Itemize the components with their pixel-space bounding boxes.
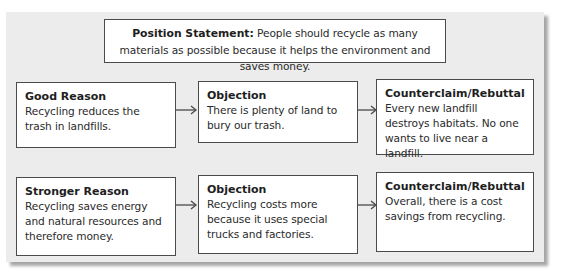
good-reason-box: Good Reason Recycling reduces the trash … (16, 82, 176, 148)
position-statement-box: Position Statement: People should recycl… (104, 19, 446, 63)
position-statement-label: Position Statement: (132, 27, 254, 40)
arrow-right-icon (176, 200, 198, 210)
rebuttal-title-1: Counterclaim/Rebuttal (385, 86, 525, 101)
arrow-right-icon (358, 105, 378, 115)
objection-text-2: Recycling costs more because it uses spe… (207, 197, 349, 242)
objection-text-1: There is plenty of land to bury our tras… (207, 103, 349, 133)
stronger-reason-text: Recycling saves energy and natural resou… (25, 199, 167, 244)
good-reason-title: Good Reason (25, 89, 167, 104)
rebuttal-text-1: Every new landfill destroys habitats. No… (385, 101, 525, 161)
rebuttal-box-1: Counterclaim/Rebuttal Every new landfill… (376, 79, 534, 155)
objection-title-1: Objection (207, 88, 349, 103)
stronger-reason-box: Stronger Reason Recycling saves energy a… (16, 177, 176, 256)
arrow-right-icon (358, 200, 378, 210)
rebuttal-box-2: Counterclaim/Rebuttal Overall, there is … (376, 172, 534, 252)
objection-box-1: Objection There is plenty of land to bur… (198, 81, 358, 143)
rebuttal-text-2: Overall, there is a cost savings from re… (385, 194, 525, 224)
objection-box-2: Objection Recycling costs more because i… (198, 175, 358, 254)
good-reason-text: Recycling reduces the trash in landfills… (25, 104, 167, 134)
objection-title-2: Objection (207, 182, 349, 197)
stronger-reason-title: Stronger Reason (25, 184, 167, 199)
rebuttal-title-2: Counterclaim/Rebuttal (385, 179, 525, 194)
arrow-right-icon (176, 105, 198, 115)
